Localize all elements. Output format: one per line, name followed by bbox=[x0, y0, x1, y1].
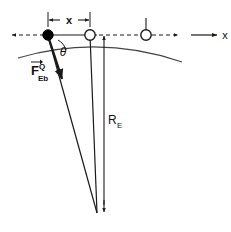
filled-ball-marker bbox=[43, 30, 53, 40]
open-ball-marker-2 bbox=[141, 30, 151, 40]
radius-symbol-label: R bbox=[108, 113, 117, 127]
force-superscript-label: Q bbox=[39, 62, 45, 71]
open-ball-marker-1 bbox=[85, 30, 95, 40]
theta-angle-label: θ bbox=[60, 45, 67, 59]
x-axis-label: x bbox=[222, 29, 228, 41]
radius-line-from-filled-ball bbox=[48, 36, 97, 213]
force-vector-label-group: F Q Eb bbox=[31, 60, 48, 83]
x-distance-label: x bbox=[66, 14, 73, 26]
radius-line-from-open-ball bbox=[90, 35, 97, 213]
force-subscript-label: Eb bbox=[38, 74, 48, 83]
diagram-canvas: x x θ F Q Eb R E bbox=[0, 0, 231, 232]
physics-diagram-figure: x x θ F Q Eb R E bbox=[0, 0, 231, 232]
earth-surface-arc bbox=[18, 47, 182, 62]
radius-subscript-label: E bbox=[117, 121, 122, 130]
earth-radius-label-group: R E bbox=[108, 113, 122, 130]
